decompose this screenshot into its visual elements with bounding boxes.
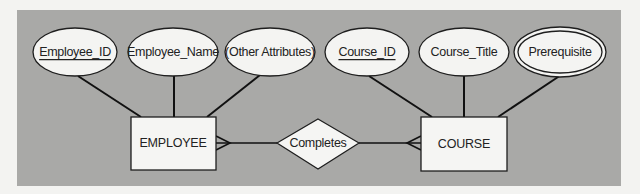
attribute-prerequisite-multivalued: Prerequisite	[514, 27, 606, 77]
attribute-label: Course_Title	[431, 45, 498, 59]
attribute-label: Employee_ID	[39, 45, 111, 59]
entity-label: COURSE	[438, 137, 490, 151]
attribute-course-id: Course_ID	[325, 28, 409, 76]
attribute-label: Prerequisite	[528, 45, 591, 59]
attribute-label: Course_ID	[338, 45, 395, 59]
er-diagram: Employee_ID Employee_Name (Other Attribu…	[0, 0, 640, 194]
attribute-label: (Other Attributes)	[225, 45, 315, 59]
attribute-other-attributes: (Other Attributes)	[225, 28, 315, 76]
entity-employee: EMPLOYEE	[131, 117, 216, 170]
attribute-employee-id: Employee_ID	[33, 28, 117, 76]
entity-label: EMPLOYEE	[139, 136, 206, 150]
entity-course: COURSE	[421, 117, 507, 171]
relationship-label: Completes	[289, 136, 346, 150]
attribute-employee-name: Employee_Name	[127, 28, 219, 76]
attribute-course-title: Course_Title	[419, 28, 509, 76]
attribute-label: Employee_Name	[127, 45, 219, 59]
